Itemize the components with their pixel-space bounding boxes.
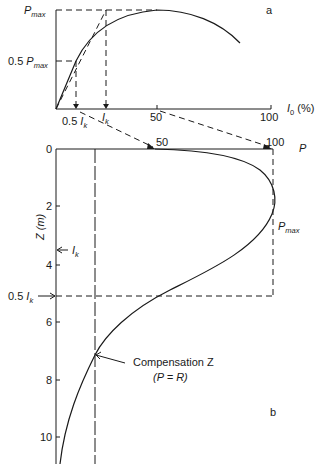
- half-ik-label: 0.5 Ik: [62, 115, 88, 130]
- top-tick-50: 50: [156, 136, 168, 148]
- pmax-label: Pmax: [24, 4, 46, 19]
- compensation-label-line2: (P = R): [153, 371, 188, 383]
- depth-tick-0: 0: [46, 143, 52, 155]
- compensation-label-line1: Compensation Z: [133, 356, 214, 368]
- half-pmax-label: 0.5 Pmax: [8, 55, 48, 70]
- initial-slope-tangent: [56, 10, 106, 109]
- connector-half-ik-to-50: [80, 112, 153, 147]
- photosynthesis-light-diagram: Pmax 0.5 Pmax 50 100 I0 (%) 0.5 Ik Ik a …: [0, 0, 326, 474]
- depth-tick-8: 8: [46, 374, 52, 386]
- panel-b: 50 100 P 0 2 4 6 8 10 Z (m) Pmax Ik 0.5 …: [8, 136, 307, 464]
- depth-tick-4: 4: [46, 259, 52, 271]
- p-i-curve: [56, 10, 240, 109]
- arrow-icon: [147, 143, 155, 149]
- compensation-pointer-line: [96, 355, 125, 363]
- half-ik-label: 0.5 Ik: [8, 290, 34, 305]
- ik-label: Ik: [72, 244, 80, 259]
- depth-axis-label: Z (m): [34, 213, 46, 241]
- arrow-icon: [103, 104, 109, 109]
- depth-tick-6: 6: [46, 316, 52, 328]
- p-depth-curve: [60, 149, 275, 464]
- pmax-label: Pmax: [278, 220, 300, 235]
- x-tick-100: 100: [260, 111, 278, 123]
- panel-a-label: a: [266, 4, 273, 16]
- top-tick-100: 100: [266, 136, 284, 148]
- depth-tick-2: 2: [46, 200, 52, 212]
- x-axis-label: I0 (%): [287, 102, 314, 117]
- ik-label: Ik: [102, 111, 110, 126]
- top-axis-label: P: [299, 142, 307, 154]
- depth-tick-10: 10: [40, 431, 52, 443]
- x-tick-50: 50: [150, 111, 162, 123]
- arrow-icon: [73, 104, 79, 109]
- panel-b-label: b: [270, 406, 276, 418]
- connector-50-to-100: [160, 111, 270, 147]
